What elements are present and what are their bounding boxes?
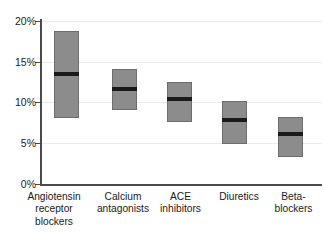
- y-tick-label-15: 15%: [0, 57, 36, 67]
- median-line-calcium-antagonists: [112, 87, 137, 91]
- range-bar-beta-blockers: [278, 117, 303, 157]
- gridline-20: [41, 21, 322, 22]
- y-tick-label-10: 10%: [0, 97, 36, 107]
- range-bar-chart: 20% 15% 10% 5% 0% Angiotensin receptor b…: [0, 0, 325, 234]
- median-line-ace-inhibitors: [167, 97, 192, 101]
- x-category-label-calcium-antagonists: Calcium antagonists: [90, 191, 156, 216]
- x-category-label-ace-inhibitors: ACE inhibitors: [153, 191, 208, 216]
- y-tick-label-0: 0%: [0, 179, 36, 189]
- median-line-angiotensin-receptor-blockers: [54, 72, 79, 76]
- x-category-label-beta-blockers: Beta- blockers: [266, 191, 321, 216]
- plot-area: [41, 21, 322, 184]
- gridline-15: [41, 62, 322, 63]
- range-bar-diuretics: [222, 101, 247, 144]
- y-tick-label-20: 20%: [0, 16, 36, 26]
- x-category-label-angiotensin-receptor-blockers: Angiotensin receptor blockers: [19, 191, 89, 228]
- y-tick-label-5: 5%: [0, 138, 36, 148]
- x-axis-line: [40, 184, 322, 186]
- median-line-diuretics: [222, 118, 247, 122]
- median-line-beta-blockers: [278, 132, 303, 136]
- range-bar-ace-inhibitors: [167, 82, 192, 122]
- x-category-label-diuretics: Diuretics: [209, 191, 269, 203]
